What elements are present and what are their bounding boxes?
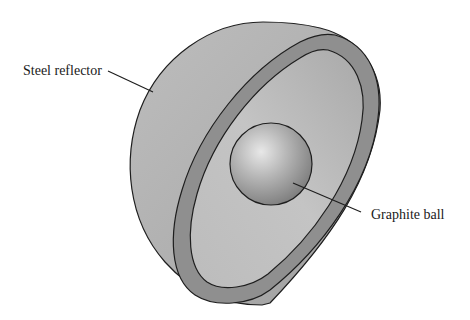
- reflector-diagram: [0, 0, 470, 320]
- steel-reflector-leader-line: [108, 71, 153, 92]
- steel-reflector-label: Steel reflector: [23, 63, 102, 79]
- graphite-ball-label: Graphite ball: [371, 207, 444, 223]
- graphite-ball: [230, 123, 312, 205]
